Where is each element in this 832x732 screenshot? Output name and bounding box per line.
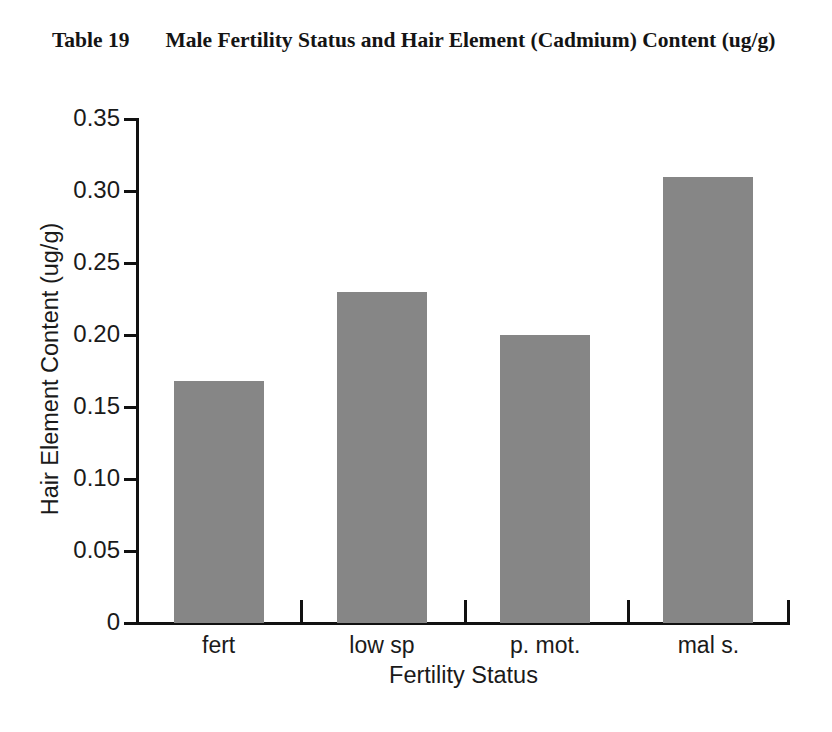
y-axis-tick-label: 0 — [28, 610, 120, 634]
x-axis-title: Fertility Status — [137, 662, 790, 688]
y-axis-tick-label-wrap: 0.10 — [14, 466, 120, 490]
x-axis-end-tick — [787, 600, 790, 625]
y-axis-tick — [124, 334, 137, 337]
y-axis-tick — [124, 550, 137, 553]
x-axis-category-label: mal s. — [628, 632, 788, 658]
bar-chart: 00.050.100.150.200.250.300.35 fertlow sp… — [0, 0, 832, 732]
y-axis-tick-label-wrap: 0.30 — [14, 178, 120, 202]
y-axis-tick-label-wrap: 0.35 — [14, 106, 120, 130]
x-axis-tick — [300, 600, 303, 625]
y-axis-tick — [124, 478, 137, 481]
bar-fert[interactable] — [174, 381, 264, 623]
y-axis-tick-label-wrap: 0.25 — [14, 250, 120, 274]
x-axis-tick — [627, 600, 630, 625]
y-axis-tick — [124, 406, 137, 409]
x-axis-tick — [464, 600, 467, 625]
bar-p-mot[interactable] — [500, 335, 590, 623]
y-axis-tick-label-wrap: 0.15 — [14, 394, 120, 418]
x-axis-category-label: fert — [139, 632, 299, 658]
y-axis-line — [136, 118, 139, 625]
y-axis-tick-label-wrap: 0 — [14, 610, 120, 634]
y-axis-tick — [124, 262, 137, 265]
y-axis-tick — [124, 118, 137, 121]
y-axis-tick — [124, 190, 137, 193]
x-axis-category-label: low sp — [302, 632, 462, 658]
y-axis-tick-label: 0.35 — [28, 106, 120, 130]
y-axis-tick-label-wrap: 0.05 — [14, 538, 120, 562]
y-axis-title: Hair Element Content (ug/g) — [37, 159, 63, 579]
y-axis-tick-label-wrap: 0.20 — [14, 322, 120, 346]
bar-low-sp[interactable] — [337, 292, 427, 623]
x-axis-category-label: p. mot. — [465, 632, 625, 658]
y-axis-tick — [124, 622, 137, 625]
bar-mal-s[interactable] — [663, 177, 753, 623]
